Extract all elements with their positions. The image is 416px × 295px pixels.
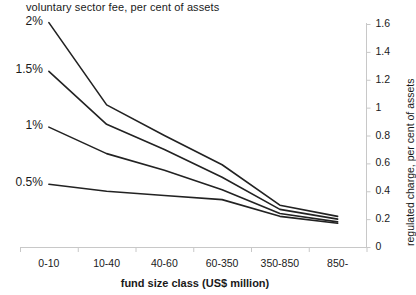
y-axis-title: regulated charge, per cent of assets [404, 78, 416, 246]
series-line-0-5pct [49, 184, 338, 223]
series-label-2pct: 2% [0, 14, 43, 28]
series-label-0-5pct: 0.5% [0, 175, 43, 189]
series-line-2pct [49, 23, 338, 217]
series-lines [49, 23, 338, 224]
x-tick-label: 850- [298, 257, 378, 269]
y-tick-label: 1.2 [376, 73, 391, 85]
y-tick-label: 1.6 [376, 17, 391, 29]
y-tick-marks [367, 25, 371, 248]
y-tick-label: 0.4 [376, 184, 391, 196]
y-tick-label: 0.2 [376, 212, 391, 224]
series-label-1-5pct: 1.5% [0, 62, 43, 76]
y-tick-label: 1.4 [376, 45, 391, 57]
series-label-1pct: 1% [0, 118, 43, 132]
y-tick-label: 0.8 [376, 129, 391, 141]
y-tick-label: 0 [376, 240, 382, 252]
x-axis-title: fund size class (US$ million) [0, 277, 390, 289]
y-tick-label: 1 [376, 101, 382, 113]
y-tick-label: 0.6 [376, 156, 391, 168]
